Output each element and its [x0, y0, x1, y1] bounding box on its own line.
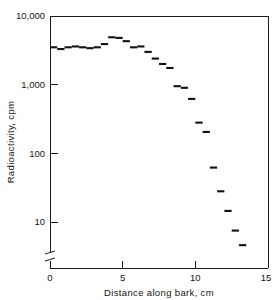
data-series-radioactivity — [50, 37, 246, 245]
y-tick-label-10: 10 — [34, 216, 45, 227]
y-tick-label-1000: 1,000 — [21, 79, 45, 90]
y-tick-label-10000: 10,000 — [16, 10, 45, 21]
chart-canvas: 10,000 1,000 100 10 0 5 10 15 Distance a… — [0, 0, 279, 300]
x-tick-labels: 0 5 10 15 — [47, 272, 271, 283]
x-tick-label-5: 5 — [120, 272, 125, 283]
y-tick-labels: 10,000 1,000 100 10 — [16, 10, 45, 227]
x-tick-label-15: 15 — [261, 272, 272, 283]
y-tick-label-100: 100 — [29, 148, 45, 159]
x-axis-title: Distance along bark, cm — [104, 287, 214, 298]
x-tick-label-0: 0 — [47, 272, 52, 283]
y-axis-title: Radioactivity, cpm — [5, 101, 16, 184]
y-axis-break-icon — [45, 251, 55, 261]
x-tick-label-10: 10 — [190, 272, 201, 283]
x-axis-ticks — [50, 261, 268, 268]
radioactivity-bark-chart: 10,000 1,000 100 10 0 5 10 15 Distance a… — [0, 0, 279, 300]
